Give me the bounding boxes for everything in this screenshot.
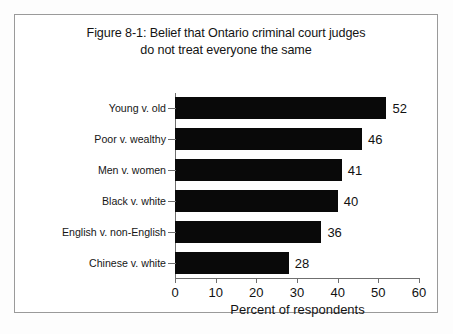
- bar-value-label: 52: [392, 101, 406, 116]
- chart-title: Figure 8-1: Belief that Ontario criminal…: [15, 25, 437, 59]
- bar-row: 41: [175, 159, 419, 181]
- bar-value-label: 41: [348, 163, 362, 178]
- x-axis-tick: [297, 278, 298, 283]
- x-axis-tick-label: 50: [371, 285, 385, 300]
- x-axis-tick: [419, 278, 420, 283]
- category-label: Chinese v. white: [89, 257, 166, 269]
- x-axis-tick-label: 30: [290, 285, 304, 300]
- bar: [175, 252, 289, 274]
- bar-value-label: 46: [368, 132, 382, 147]
- bar: [175, 97, 386, 119]
- chart-title-line-1: Figure 8-1: Belief that Ontario criminal…: [15, 25, 437, 42]
- x-axis-tick: [175, 278, 176, 283]
- x-axis-tick-label: 20: [249, 285, 263, 300]
- category-label: Young v. old: [109, 102, 166, 114]
- category-label: English v. non-English: [62, 226, 166, 238]
- plot-area: 524641403628: [175, 93, 419, 278]
- figure-frame: Figure 8-1: Belief that Ontario criminal…: [14, 14, 438, 313]
- y-axis-tick: [168, 170, 176, 171]
- x-axis-tick-label: 0: [171, 285, 178, 300]
- bar: [175, 159, 342, 181]
- bar-row: 36: [175, 221, 419, 243]
- category-axis-labels: Young v. oldPoor v. wealthyMen v. womenB…: [35, 93, 166, 278]
- bar: [175, 128, 362, 150]
- x-axis-tick: [338, 278, 339, 283]
- bar: [175, 221, 321, 243]
- bar-value-label: 36: [327, 224, 341, 239]
- x-axis-tick-label: 40: [330, 285, 344, 300]
- bar-row: 28: [175, 252, 419, 274]
- y-axis-tick: [168, 108, 176, 109]
- bar-value-label: 28: [295, 255, 309, 270]
- bar-row: 40: [175, 190, 419, 212]
- y-axis-tick: [168, 139, 176, 140]
- bar-row: 52: [175, 97, 419, 119]
- bar-value-label: 40: [344, 193, 358, 208]
- x-axis-tick: [256, 278, 257, 283]
- x-axis-tick: [216, 278, 217, 283]
- x-axis-title: Percent of respondents: [175, 302, 420, 317]
- chart-title-line-2: do not treat everyone the same: [15, 42, 437, 59]
- chart-page: Figure 8-1: Belief that Ontario criminal…: [0, 0, 453, 334]
- x-axis-tick-label: 60: [412, 285, 426, 300]
- x-axis-tick: [378, 278, 379, 283]
- y-axis-tick: [168, 201, 176, 202]
- y-axis-tick: [168, 263, 176, 264]
- bar-row: 46: [175, 128, 419, 150]
- y-axis-tick: [168, 232, 176, 233]
- category-label: Poor v. wealthy: [94, 133, 166, 145]
- category-label: Men v. women: [98, 164, 166, 176]
- category-label: Black v. white: [102, 195, 166, 207]
- bar: [175, 190, 338, 212]
- x-axis-tick-label: 10: [208, 285, 222, 300]
